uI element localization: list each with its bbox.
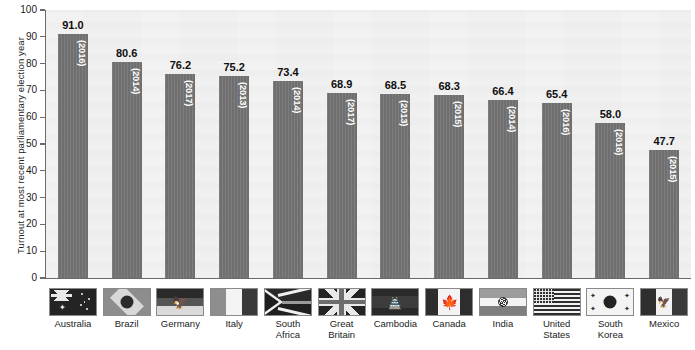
country-axis-labels: ✦AustraliaBrazil🦅GermanyItalySouthAfrica…	[46, 288, 691, 350]
country-axis-item[interactable]: India	[477, 288, 529, 330]
bar-group[interactable]: (2013)75.2	[219, 10, 249, 278]
bar-value-label: 68.3	[427, 80, 471, 92]
y-tick-label: 30	[13, 192, 37, 203]
bar-value-label: 68.9	[320, 78, 364, 90]
flag-south-africa-icon	[264, 288, 312, 316]
bar-value-label: 65.4	[535, 88, 579, 100]
flag-mexico-icon: 🦅	[640, 288, 688, 316]
bar-group[interactable]: (2017)76.2	[165, 10, 195, 278]
y-tick-label: 20	[13, 218, 37, 229]
country-axis-item[interactable]: ✦Australia	[47, 288, 99, 330]
y-tick-mark	[40, 170, 45, 171]
y-tick-label: 60	[13, 111, 37, 122]
y-tick-mark	[40, 143, 45, 144]
y-tick-mark	[40, 251, 45, 252]
bar[interactable]: (2014)	[112, 62, 142, 278]
x-axis-line	[45, 278, 691, 279]
country-label: UnitedStates	[531, 319, 583, 340]
y-tick-mark	[40, 224, 45, 225]
bar-year-label: (2017)	[346, 99, 357, 129]
bar-year-label: (2013)	[399, 100, 410, 130]
bar[interactable]: (2015)	[434, 95, 464, 278]
y-tick-mark	[40, 63, 45, 64]
bar-value-label: 58.0	[588, 108, 632, 120]
country-axis-item[interactable]: Italy	[208, 288, 260, 330]
flag-canada-icon: 🍁	[425, 288, 473, 316]
bar-value-label: 75.2	[212, 61, 256, 73]
country-label: India	[477, 319, 529, 330]
y-tick-mark	[40, 36, 45, 37]
bar-year-label: (2013)	[238, 82, 249, 112]
country-axis-item[interactable]: 🍁Canada	[423, 288, 475, 330]
y-tick-mark	[40, 9, 45, 10]
country-axis-item[interactable]: 🏯Cambodia	[369, 288, 421, 330]
flag-great-britain-icon	[318, 288, 366, 316]
country-axis-item[interactable]: GreatBritain	[316, 288, 368, 340]
flag-india-icon	[479, 288, 527, 316]
bar[interactable]: (2013)	[380, 94, 410, 278]
bar[interactable]: (2017)	[327, 93, 357, 278]
country-axis-item[interactable]: ✦✦✦✦SouthKorea	[584, 288, 636, 340]
y-tick-mark	[40, 277, 45, 278]
bar-group[interactable]: (2013)68.5	[380, 10, 410, 278]
bar[interactable]: (2015)	[649, 150, 679, 278]
bar[interactable]: (2014)	[273, 81, 303, 278]
y-tick-label: 0	[13, 272, 37, 283]
bar-group[interactable]: (2016)91.0	[58, 10, 88, 278]
flag-australia-icon: ✦	[49, 288, 97, 316]
bar-year-label: (2014)	[292, 87, 303, 117]
country-axis-item[interactable]: Brazil	[101, 288, 153, 330]
country-label: Brazil	[101, 319, 153, 330]
flag-germany-icon: 🦅	[156, 288, 204, 316]
bar-value-label: 47.7	[642, 135, 686, 147]
bar-group[interactable]: (2015)47.7	[649, 10, 679, 278]
country-label: Italy	[208, 319, 260, 330]
bar-group[interactable]: (2014)73.4	[273, 10, 303, 278]
y-tick-mark	[40, 197, 45, 198]
y-tick-label: 80	[13, 58, 37, 69]
bar[interactable]: (2016)	[595, 123, 625, 278]
bar-year-label: (2015)	[453, 101, 464, 131]
country-label: Germany	[154, 319, 206, 330]
bar-group[interactable]: (2017)68.9	[327, 10, 357, 278]
country-axis-item[interactable]: UnitedStates	[531, 288, 583, 340]
bar[interactable]: (2016)	[542, 103, 572, 278]
turnout-bar-chart: Turnout at most recent parliamentary ele…	[0, 0, 695, 350]
bar[interactable]: (2017)	[165, 74, 195, 278]
bar[interactable]: (2013)	[219, 76, 249, 278]
y-axis-line	[45, 10, 46, 279]
plot-area: (2016)91.0(2014)80.6(2017)76.2(2013)75.2…	[46, 10, 691, 278]
country-axis-item[interactable]: 🦅Mexico	[638, 288, 690, 330]
bar-group[interactable]: (2014)66.4	[488, 10, 518, 278]
y-tick-label: 90	[13, 31, 37, 42]
bar-year-label: (2016)	[614, 129, 625, 159]
bar-group[interactable]: (2015)68.3	[434, 10, 464, 278]
flag-cambodia-icon: 🏯	[371, 288, 419, 316]
flag-italy-icon	[210, 288, 258, 316]
bar-group[interactable]: (2014)80.6	[112, 10, 142, 278]
country-label: GreatBritain	[316, 319, 368, 340]
bar-value-label: 91.0	[51, 19, 95, 31]
bar-value-label: 76.2	[158, 59, 202, 71]
country-label: SouthKorea	[584, 319, 636, 340]
y-tick-mark	[40, 117, 45, 118]
bar-year-label: (2017)	[184, 80, 195, 110]
bar-year-label: (2016)	[561, 109, 572, 139]
bar[interactable]: (2016)	[58, 34, 88, 278]
country-axis-item[interactable]: 🦅Germany	[154, 288, 206, 330]
bar-year-label: (2014)	[507, 106, 518, 136]
bar-value-label: 73.4	[266, 66, 310, 78]
country-axis-item[interactable]: SouthAfrica	[262, 288, 314, 340]
y-tick-label: 70	[13, 84, 37, 95]
y-tick-label: 40	[13, 165, 37, 176]
country-label: Canada	[423, 319, 475, 330]
country-label: Cambodia	[369, 319, 421, 330]
bar-group[interactable]: (2016)65.4	[542, 10, 572, 278]
bar[interactable]: (2014)	[488, 100, 518, 278]
bar-value-label: 66.4	[481, 85, 525, 97]
flag-united-states-icon	[533, 288, 581, 316]
bar-value-label: 80.6	[105, 47, 149, 59]
country-label: SouthAfrica	[262, 319, 314, 340]
bar-value-label: 68.5	[373, 79, 417, 91]
bar-group[interactable]: (2016)58.0	[595, 10, 625, 278]
